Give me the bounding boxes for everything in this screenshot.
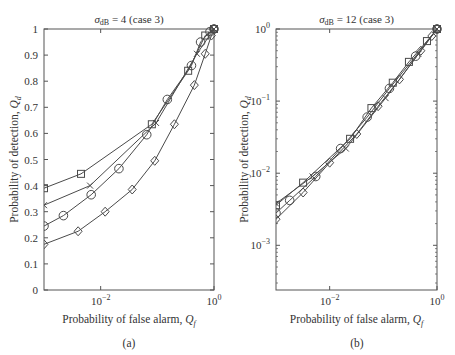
x-tick-label: 100 [430, 293, 445, 307]
y-tick-label: 0.1 [24, 258, 38, 270]
x-axis-label: Probability of false alarm, Qf [290, 313, 425, 328]
y-tick-label: 0.7 [24, 101, 38, 113]
y-tick-label: 100 [255, 21, 270, 35]
y-tick-label: 0.4 [24, 180, 38, 192]
series-diamond [40, 25, 218, 249]
y-tick-label: 0.8 [24, 75, 38, 87]
y-tick-label: 10−1 [250, 93, 270, 107]
y-tick-label: 1 [33, 23, 39, 35]
y-tick-label: 0.6 [24, 127, 38, 139]
x-tick-label: 10−2 [91, 293, 111, 307]
panel-label: (a) [123, 337, 136, 350]
chart-panel-b: 10−310−210−110010−2100σdB = 12 (case 3)P… [238, 13, 445, 350]
y-tick-label: 0 [33, 284, 39, 296]
panel-title: σdB = 12 (case 3) [319, 13, 394, 27]
series-line [44, 29, 214, 188]
series-cross [41, 26, 217, 208]
y-tick-label: 10−3 [250, 237, 270, 251]
series-circle [40, 25, 219, 231]
y-tick-label: 10−2 [250, 165, 270, 179]
y-tick-label: 0.5 [24, 154, 38, 166]
series-cross [273, 26, 440, 207]
x-tick-label: 10−2 [320, 293, 340, 307]
x-axis-label: Probability of false alarm, Qf [62, 313, 197, 328]
chart-panel-a: 00.10.20.30.40.50.60.70.80.9110−2100σdB … [8, 13, 222, 350]
y-axis-label: Probability of detection, Qd [238, 95, 253, 223]
y-axis-label: Probability of detection, Qd [8, 95, 23, 223]
x-tick-label: 100 [207, 293, 222, 307]
y-tick-label: 0.2 [24, 232, 38, 244]
series-square [273, 26, 441, 209]
x-marker [87, 183, 93, 189]
y-tick-label: 0.3 [24, 206, 38, 218]
panel-title: σdB = 4 (case 3) [94, 13, 164, 27]
y-tick-label: 0.9 [24, 49, 38, 61]
chart-figure: 00.10.20.30.40.50.60.70.80.9110−2100σdB … [0, 0, 455, 355]
series-line [276, 29, 437, 204]
panel-label: (b) [350, 337, 364, 350]
series-line [44, 29, 214, 226]
plot-frame [276, 29, 437, 290]
series-square [41, 26, 218, 192]
series-line [44, 29, 214, 244]
